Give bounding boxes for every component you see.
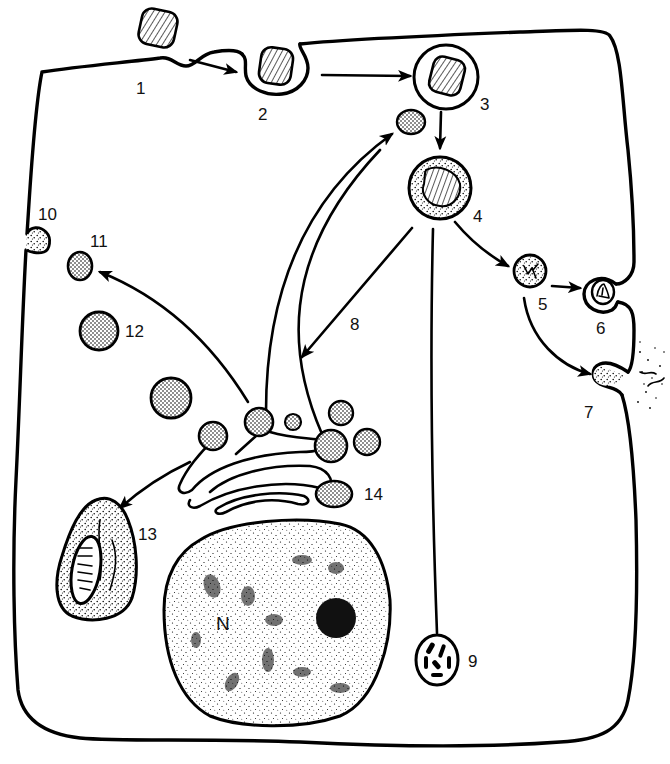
vesicle-near-3 — [397, 110, 425, 134]
secreted-material — [637, 341, 665, 409]
structure-1: 1 — [136, 7, 179, 98]
arrow-3-to-4 — [440, 112, 441, 148]
structure-10: 10 — [26, 205, 57, 253]
label-9: 9 — [468, 652, 477, 671]
label-4: 4 — [473, 207, 482, 226]
structure-4: 4 — [409, 157, 482, 226]
label-10: 10 — [38, 205, 57, 224]
cell-diagram: 1 2 3 4 8 5 6 — [0, 0, 670, 764]
vesicle — [329, 401, 353, 425]
arrow-5-to-7 — [524, 298, 590, 374]
vesicle — [285, 414, 301, 430]
arrow-8-4-to-golgi — [302, 228, 412, 357]
nucleolus — [316, 598, 356, 638]
label-2: 2 — [258, 105, 267, 124]
vesicle — [354, 429, 380, 455]
label-12: 12 — [125, 322, 144, 341]
label-1: 1 — [136, 79, 145, 98]
label-7: 7 — [584, 403, 593, 422]
nucleus: N — [164, 520, 390, 726]
structure-6: 6 — [584, 279, 618, 338]
arrow-4-to-5 — [455, 222, 508, 266]
label-nucleus: N — [216, 613, 230, 634]
line-4-to-9 — [432, 229, 437, 633]
structure-3: 3 — [414, 45, 489, 114]
label-6: 6 — [596, 319, 605, 338]
label-3: 3 — [480, 95, 489, 114]
arrow-5-to-6 — [552, 286, 580, 288]
line-golgi-to-3b — [299, 150, 380, 434]
label-14: 14 — [364, 485, 383, 504]
label-13: 13 — [138, 525, 157, 544]
structure-2: 2 — [242, 44, 308, 124]
arrow-1-to-2 — [190, 60, 236, 72]
label-5: 5 — [538, 295, 547, 314]
structure-14-golgi: 14 — [179, 408, 383, 514]
structure-9: 9 — [416, 635, 477, 685]
structure-12: 12 — [80, 312, 144, 350]
label-8: 8 — [350, 315, 359, 334]
label-11: 11 — [90, 232, 108, 251]
vesicle — [151, 378, 191, 418]
structure-13: 13 — [57, 498, 157, 620]
arrow-2-to-3 — [322, 75, 410, 76]
structure-5: 5 — [514, 255, 547, 314]
